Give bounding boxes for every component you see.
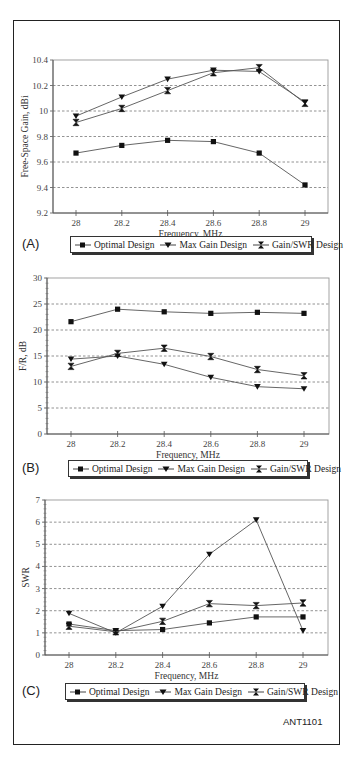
y-tick-label: 1 — [36, 628, 41, 638]
series-line — [69, 520, 303, 633]
chart-c-plot: 012345672828.228.428.628.829Frequency, M… — [0, 0, 356, 758]
x-axis-title: Frequency, MHz — [155, 671, 219, 681]
triangle-marker-icon — [66, 611, 73, 617]
triangle-marker-icon — [300, 628, 307, 634]
legend-label: Max Gain Design — [174, 687, 242, 697]
hourglass-marker-icon — [160, 618, 166, 624]
triangle-marker-icon — [159, 604, 166, 610]
x-tick-label: 28.2 — [108, 660, 124, 670]
y-axis-title: SWR — [21, 567, 31, 588]
legend-item-gainswr: Gain/SWR Design — [248, 687, 338, 697]
legend-label: Optimal Design — [89, 687, 149, 697]
y-tick-label: 0 — [36, 650, 41, 660]
x-tick-label: 28.8 — [248, 660, 264, 670]
square-marker-icon — [300, 614, 305, 619]
series-line — [69, 617, 303, 631]
legend-item-maxgain: Max Gain Design — [155, 687, 242, 697]
x-tick-label: 28.4 — [155, 660, 171, 670]
square-marker-icon — [207, 620, 212, 625]
square-marker-icon — [160, 627, 165, 632]
legend-item-optimal: Optimal Design — [70, 687, 149, 697]
triangle-marker-icon — [155, 688, 171, 696]
y-tick-label: 4 — [36, 561, 41, 571]
square-marker-icon — [70, 688, 86, 696]
plot-area — [45, 500, 328, 655]
panel-label-c: (C) — [22, 683, 40, 698]
y-tick-label: 7 — [36, 495, 41, 505]
figure-id: ANT1101 — [283, 716, 322, 727]
legend-label: Gain/SWR Design — [267, 687, 338, 697]
x-tick-label: 29 — [299, 660, 309, 670]
series-markers — [66, 517, 307, 636]
hourglass-marker-icon — [248, 688, 264, 696]
legend-c: Optimal Design Max Gain Design Gain/SWR … — [65, 683, 305, 700]
y-tick-label: 3 — [36, 584, 41, 594]
y-tick-label: 6 — [36, 517, 41, 527]
x-tick-label: 28 — [65, 660, 75, 670]
square-marker-icon — [254, 614, 259, 619]
y-tick-label: 2 — [36, 606, 41, 616]
x-tick-label: 28.6 — [202, 660, 218, 670]
y-tick-label: 5 — [36, 539, 41, 549]
